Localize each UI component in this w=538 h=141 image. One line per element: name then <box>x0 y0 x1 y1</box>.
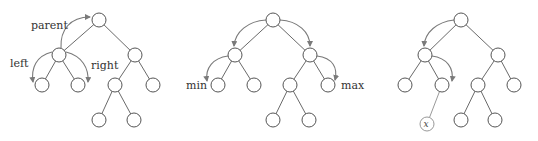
root-to-right-arrow <box>280 20 310 46</box>
tree-node <box>228 48 242 62</box>
tree-node <box>471 78 485 92</box>
tree-node-root <box>92 13 106 27</box>
tree-node <box>128 48 142 62</box>
label-left: left <box>10 57 29 70</box>
tree-nodes <box>398 13 521 131</box>
tree-node <box>303 48 317 62</box>
tree-node-root <box>266 13 280 27</box>
tree-node <box>454 113 468 127</box>
left-to-right-arrow <box>432 56 452 81</box>
tree-node <box>302 113 316 127</box>
tree-panel-3: x <box>398 13 521 131</box>
tree-node <box>52 48 66 62</box>
tree-node <box>92 113 106 127</box>
tree-node <box>491 48 505 62</box>
max-arrow <box>317 56 336 80</box>
root-to-left-arrow <box>424 20 454 46</box>
tree-node-min <box>211 78 225 92</box>
tree-edges <box>405 20 514 124</box>
tree-node-root <box>454 13 468 27</box>
right-arrow <box>66 52 88 82</box>
tree-edges <box>218 20 328 120</box>
min-arrow <box>207 56 228 81</box>
tree-panel-1: parent left right <box>10 13 160 127</box>
label-max: max <box>341 79 365 92</box>
tree-node <box>71 78 85 92</box>
tree-node <box>247 78 261 92</box>
tree-node <box>266 113 280 127</box>
tree-node <box>127 113 141 127</box>
left-arrow <box>33 52 52 82</box>
tree-arrows <box>207 20 336 81</box>
diagram-canvas: parent left right <box>0 0 538 141</box>
label-right: right <box>91 59 119 72</box>
label-min: min <box>186 79 207 92</box>
tree-node <box>398 78 412 92</box>
tree-node <box>418 48 432 62</box>
tree-nodes <box>211 13 335 127</box>
tree-node <box>146 78 160 92</box>
tree-node <box>108 78 122 92</box>
tree-panel-2: min max <box>186 13 365 127</box>
label-x: x <box>424 119 429 129</box>
root-to-left-arrow <box>234 20 266 46</box>
tree-node <box>488 113 502 127</box>
tree-node <box>435 78 449 92</box>
tree-node-max <box>321 78 335 92</box>
tree-node <box>507 78 521 92</box>
label-parent: parent <box>31 19 68 32</box>
tree-node <box>283 78 297 92</box>
tree-node <box>35 78 49 92</box>
